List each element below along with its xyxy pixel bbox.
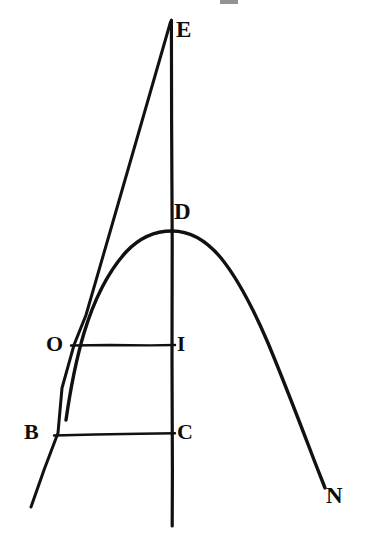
point-label-i: I bbox=[177, 334, 185, 355]
point-label-b: B bbox=[24, 421, 39, 443]
point-label-e: E bbox=[176, 18, 191, 41]
segment-O-I bbox=[71, 345, 175, 346]
vertical-axis-line bbox=[171, 20, 172, 526]
figure-canvas: E D O I B C N bbox=[0, 0, 376, 551]
point-label-d: D bbox=[174, 200, 191, 223]
point-label-c: C bbox=[177, 421, 193, 443]
point-label-o: O bbox=[46, 333, 63, 355]
segment-B-C bbox=[54, 433, 175, 435]
point-label-n: N bbox=[326, 484, 343, 507]
parabola-diagram bbox=[0, 0, 376, 551]
parabola-curve bbox=[66, 231, 325, 488]
